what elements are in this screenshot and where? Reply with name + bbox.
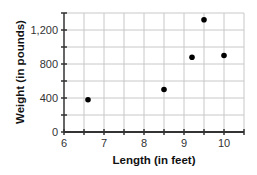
data-point bbox=[221, 53, 227, 59]
x-tick-label: 8 bbox=[141, 137, 147, 149]
data-point bbox=[161, 87, 167, 93]
data-point bbox=[85, 97, 91, 103]
y-axis-label: Weight (in pounds) bbox=[14, 20, 26, 124]
y-tick-label: 1,200 bbox=[30, 24, 58, 36]
y-tick-label: 0 bbox=[52, 126, 58, 138]
y-tick-label: 400 bbox=[40, 92, 58, 104]
y-tick-label: 800 bbox=[40, 58, 58, 70]
grid-lines bbox=[64, 13, 244, 132]
x-tick-label: 10 bbox=[218, 137, 230, 149]
x-tick-label: 9 bbox=[181, 137, 187, 149]
x-axis-tick-labels: 678910 bbox=[61, 137, 230, 149]
x-tick-label: 7 bbox=[101, 137, 107, 149]
data-point bbox=[189, 54, 195, 60]
scatter-chart: 04008001,200 678910 bbox=[0, 0, 257, 175]
x-axis-label: Length (in feet) bbox=[112, 154, 195, 166]
data-point bbox=[201, 17, 207, 23]
x-tick-label: 6 bbox=[61, 137, 67, 149]
y-axis-tick-labels: 04008001,200 bbox=[30, 24, 58, 138]
axes bbox=[61, 13, 244, 135]
